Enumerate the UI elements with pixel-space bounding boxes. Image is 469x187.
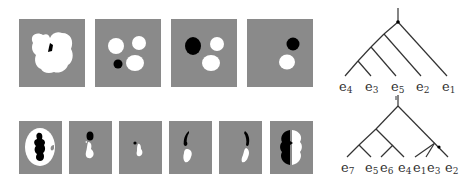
segment-panel-top-1 xyxy=(19,19,85,87)
leaf-label: e2 xyxy=(445,161,458,176)
segment-panel-top-2 xyxy=(95,19,161,87)
leaf-label: e2 xyxy=(416,80,429,95)
leaf-label: e1 xyxy=(442,80,455,95)
segment-shape xyxy=(169,121,212,174)
leaf-label: e5 xyxy=(391,80,404,95)
segment-panel-bottom-5 xyxy=(219,121,262,174)
figure: e4 e3 e5 e2 e1 xyxy=(0,0,469,187)
leaf-label: e5 xyxy=(365,161,378,176)
leaf-label: e3 xyxy=(365,80,378,95)
segment-panel-bottom-4 xyxy=(169,121,212,174)
segment-shape xyxy=(95,19,161,87)
leaf-label: e3 xyxy=(427,161,440,176)
segment-shape xyxy=(247,19,313,87)
segment-shape xyxy=(171,19,237,87)
segment-panel-top-3 xyxy=(171,19,237,87)
segment-shape xyxy=(219,121,262,174)
segment-shape xyxy=(19,121,62,174)
segment-shape xyxy=(119,121,162,174)
segment-shape xyxy=(270,121,313,174)
leaf-label: e4 xyxy=(339,80,352,95)
segment-panel-bottom-3 xyxy=(119,121,162,174)
segment-panel-bottom-1 xyxy=(19,121,62,174)
hierarchy-tree-top: e4 e3 e5 e2 e1 xyxy=(335,0,469,100)
segment-panel-bottom-2 xyxy=(69,121,112,174)
hierarchy-tree-bottom: e7 e5 e6 e4 e1 e3 e2 xyxy=(335,95,469,187)
segment-panel-bottom-6 xyxy=(270,121,313,174)
leaf-label: e1 xyxy=(413,161,426,176)
leaf-label: e7 xyxy=(341,161,354,176)
segment-panel-top-4 xyxy=(247,19,313,87)
leaf-label: e4 xyxy=(398,161,411,176)
segment-shape xyxy=(19,19,85,87)
leaf-label: e6 xyxy=(380,161,393,176)
segment-shape xyxy=(69,121,112,174)
